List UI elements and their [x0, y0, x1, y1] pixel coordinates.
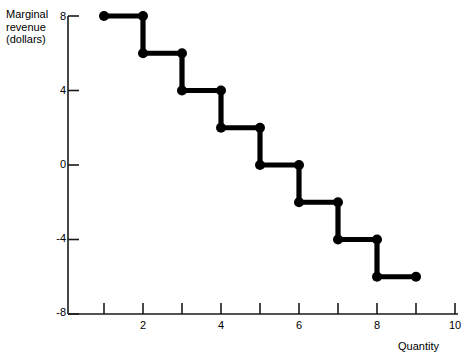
data-point — [99, 11, 109, 21]
data-point — [372, 235, 382, 245]
data-point — [177, 48, 187, 58]
data-point — [138, 11, 148, 21]
step-path — [104, 16, 416, 277]
plot-area — [0, 0, 476, 360]
data-point — [216, 123, 226, 133]
data-point — [294, 197, 304, 207]
data-point — [333, 197, 343, 207]
data-point — [294, 160, 304, 170]
data-point — [333, 235, 343, 245]
data-point — [138, 48, 148, 58]
data-point — [216, 86, 226, 96]
data-point — [411, 272, 421, 282]
data-point — [255, 123, 265, 133]
step-function-line — [104, 16, 416, 277]
data-point — [372, 272, 382, 282]
data-point — [177, 86, 187, 96]
data-point — [255, 160, 265, 170]
marginal-revenue-chart: Marginal revenue (dollars) Quantity 8 4 … — [0, 0, 476, 360]
